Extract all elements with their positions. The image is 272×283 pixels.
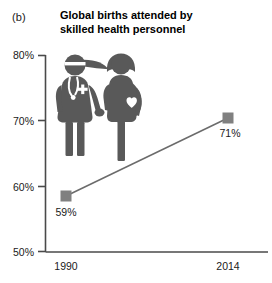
nurse-cap-band [65, 62, 86, 65]
chart-figure: (b) Global births attended by skilled he… [0, 0, 272, 283]
y-tick-label-60: 60% [13, 181, 34, 193]
x-tick-label-2014: 2014 [216, 260, 240, 272]
plot-area: 80% 70% 60% 50% 1990 2014 [0, 0, 272, 283]
y-tick-label-70: 70% [13, 115, 34, 127]
data-marker-1990 [61, 191, 72, 202]
stethoscope-chestpiece [71, 95, 76, 100]
y-axis [38, 55, 46, 252]
nurse-dress [58, 76, 93, 123]
y-tick-label-50: 50% [13, 246, 34, 258]
nurse-right-leg [77, 122, 85, 156]
pregnant-woman-icon [103, 54, 141, 162]
pictogram-nurse-and-pregnant-woman [56, 54, 142, 162]
data-line-series-1 [66, 118, 228, 196]
pregnant-woman-left-arm [103, 84, 110, 111]
pregnant-woman-head [111, 55, 131, 75]
pregnant-woman-left-leg [118, 121, 126, 161]
data-label-1990: 59% [55, 206, 76, 218]
held-hands [95, 109, 105, 117]
nurse-icon [56, 55, 108, 157]
data-marker-2014 [223, 113, 234, 124]
x-tick-label-1990: 1990 [54, 260, 78, 272]
nurse-left-leg [66, 122, 74, 156]
y-tick-label-80: 80% [13, 49, 34, 61]
data-label-2014: 71% [219, 127, 240, 139]
